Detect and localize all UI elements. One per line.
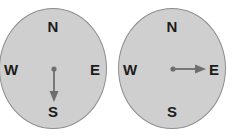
compass-label-west: W (1, 62, 21, 77)
compass-label-east: E (204, 62, 224, 77)
compass-label-north: N (162, 19, 182, 34)
compass-figure: N S W E N S W E (0, 0, 234, 137)
compass-label-west: W (120, 62, 140, 77)
compass-right: N S W E (117, 8, 227, 130)
compass-label-north: N (43, 19, 63, 34)
compass-label-south: S (162, 104, 182, 119)
compass-label-east: E (85, 62, 105, 77)
compass-left: N S W E (0, 8, 108, 130)
compass-label-south: S (43, 104, 63, 119)
